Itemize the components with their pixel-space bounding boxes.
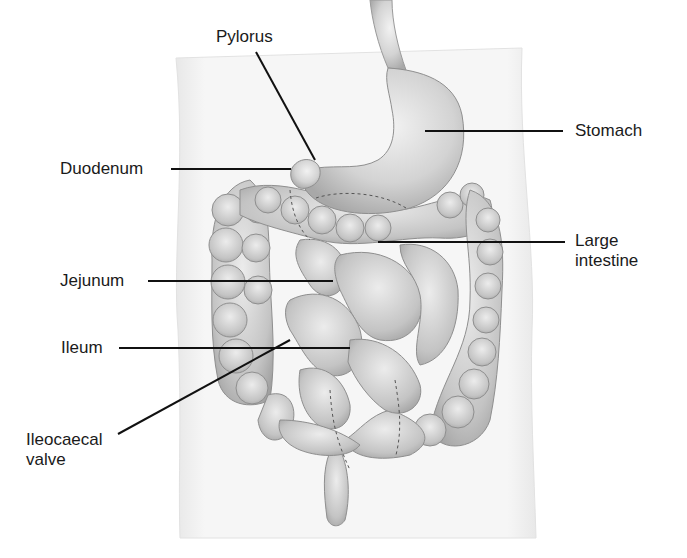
label-large-intestine-line2: intestine xyxy=(575,251,638,271)
label-stomach: Stomach xyxy=(575,121,642,141)
label-jejunum: Jejunum xyxy=(60,271,124,291)
label-large-intestine: Large intestine xyxy=(575,231,638,271)
label-pylorus: Pylorus xyxy=(216,27,273,47)
label-large-intestine-line1: Large xyxy=(575,231,638,251)
label-ileocaecal-valve: Ileocaecal valve xyxy=(26,430,103,470)
label-ileocaecal-line2: valve xyxy=(26,450,103,470)
label-ileocaecal-line1: Ileocaecal xyxy=(26,430,103,450)
label-ileum: Ileum xyxy=(61,338,103,358)
label-duodenum: Duodenum xyxy=(60,159,143,179)
